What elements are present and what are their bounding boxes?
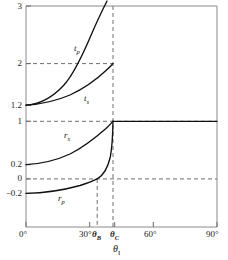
- y-tick-label-1-2: 1.2: [0, 100, 22, 110]
- guide-lines: [26, 6, 217, 227]
- curve-label-r-s: rs: [64, 130, 70, 142]
- curves: [26, 1, 217, 193]
- curve-label-t-p-subscript: p: [77, 48, 80, 55]
- x-tick-label-0: 0°: [19, 229, 27, 239]
- y-tick-label-2: 2: [0, 58, 22, 68]
- fresnel-coefficients-chart: 3 2 1.2 1 0.2 0 −0.2 0° 30° 60° 90° θB θ…: [0, 0, 228, 260]
- x-tick-label-90: 90°: [206, 229, 219, 239]
- x-tick-label-theta-c: θC: [110, 229, 119, 241]
- curve-label-r-p: rp: [58, 193, 65, 205]
- x-axis-ticks: [26, 222, 217, 227]
- y-tick-label-0: 0: [0, 173, 22, 183]
- chart-canvas: [0, 0, 228, 260]
- y-tick-label-neg-0-2: −0.2: [0, 188, 22, 198]
- x-axis-title: θI: [113, 243, 120, 257]
- x-tick-label-60: 60°: [144, 229, 157, 239]
- x-tick-label-theta-b: θB: [92, 229, 101, 241]
- x-axis-title-subscript: I: [118, 249, 120, 257]
- curve-label-t-p: tp: [74, 43, 80, 55]
- theta-c-subscript: C: [115, 234, 119, 241]
- y-tick-label-3: 3: [0, 1, 22, 11]
- curve-label-r-s-subscript: s: [68, 135, 71, 142]
- curve-label-t-s: ts: [84, 93, 89, 105]
- y-tick-label-1: 1: [0, 116, 22, 126]
- curve-r-s: [26, 121, 113, 164]
- y-tick-label-0-2: 0.2: [0, 159, 22, 169]
- plot-frame: [26, 6, 217, 227]
- curve-label-t-s-subscript: s: [87, 98, 90, 105]
- theta-b-subscript: B: [97, 234, 101, 241]
- curve-label-r-p-subscript: p: [62, 198, 65, 205]
- curve-t-p: [26, 1, 107, 105]
- x-tick-label-30: 30°: [79, 229, 92, 239]
- curve-t-s: [26, 64, 113, 106]
